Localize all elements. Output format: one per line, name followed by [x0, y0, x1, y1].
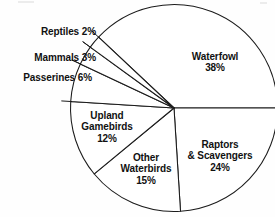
slice-label-waterfowl: Waterfowl 38% [178, 51, 252, 74]
slice-label-waterfowl-value: 38% [178, 62, 252, 73]
leader-line-passerines [62, 101, 72, 102]
slice-label-passerines: Passerines 6% [0, 72, 92, 83]
slice-label-upland-name-line2: Gamebirds [70, 121, 144, 132]
slice-label-other-waterbirds-name-line1: Other [108, 152, 184, 163]
slice-label-upland-name-line1: Upland [70, 110, 144, 121]
slice-label-other-waterbirds: Other Waterbirds 15% [108, 152, 184, 186]
pie-chart: Waterfowl 38% Raptors & Scavengers 24% O… [0, 0, 275, 217]
slice-label-raptors-value: 24% [176, 162, 264, 173]
slice-label-reptiles: Reptiles 2% [10, 26, 96, 37]
slice-label-raptors-name-line1: Raptors [176, 139, 264, 150]
slice-label-upland-gamebirds: Upland Gamebirds 12% [70, 110, 144, 144]
slice-label-mammals: Mammals 3% [2, 52, 96, 63]
slice-label-raptors-scavengers: Raptors & Scavengers 24% [176, 139, 264, 173]
slice-label-other-waterbirds-name-line2: Waterbirds [108, 163, 184, 174]
slice-label-upland-value: 12% [70, 133, 144, 144]
slice-label-raptors-name-line2: & Scavengers [176, 150, 264, 161]
slice-label-other-waterbirds-value: 15% [108, 175, 184, 186]
slice-label-waterfowl-name: Waterfowl [178, 51, 252, 62]
leader-line-reptiles [83, 42, 91, 48]
